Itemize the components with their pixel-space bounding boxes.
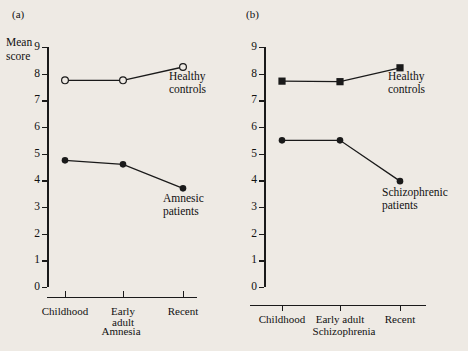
data-point-marker — [337, 137, 344, 144]
y-tick-label: 5 — [34, 148, 40, 160]
data-point-marker — [279, 137, 286, 144]
y-tick-label: 6 — [251, 121, 257, 133]
y-tick-label: 7 — [34, 95, 40, 107]
panel-a-letter: (a) — [12, 8, 24, 20]
panel-a-x-axis-title: Amnesia — [101, 325, 140, 337]
y-tick-label: 2 — [251, 228, 257, 240]
y-tick-label: 3 — [34, 201, 40, 213]
panel-b-x-axis-title: Schizophrenia — [313, 325, 376, 337]
panel-a-label-healthy-controls: Healthy controls — [169, 70, 206, 96]
y-tick-label: 8 — [34, 68, 40, 80]
panel-a-x-axis — [47, 297, 197, 298]
y-tick-label: 4 — [34, 175, 40, 187]
x-tick-label: Recent — [385, 314, 416, 325]
x-tick — [340, 305, 341, 311]
panel-a-y-axis-label-line1: Mean — [6, 36, 32, 50]
panel-b: (b) Autobiographical score 0123456789 Ch… — [234, 0, 468, 351]
x-tick-label: Childhood — [42, 306, 88, 317]
panel-a-label-healthy-controls-line2: controls — [169, 83, 206, 96]
y-tick-label: 5 — [251, 148, 257, 160]
panel-a-label-amnesic-patients-line1: Amnesic — [163, 192, 204, 205]
panel-a-label-amnesic-patients-line2: patients — [163, 205, 204, 218]
panel-a-y-axis-label-line2: score — [6, 50, 32, 64]
panel-b-label-schizophrenic-patients-line1: Schizophrenic — [382, 186, 448, 199]
y-tick-label: 1 — [251, 255, 257, 267]
data-point-marker — [62, 157, 69, 164]
data-point-marker — [120, 161, 127, 168]
data-point-marker — [336, 78, 343, 85]
y-tick-label: 7 — [251, 95, 257, 107]
panel-a: (a) Mean score 0123456789 ChildhoodEarly… — [0, 0, 234, 351]
y-tick-label: 3 — [251, 201, 257, 213]
x-tick-label: Childhood — [259, 314, 305, 325]
y-tick-label: 9 — [34, 41, 40, 53]
panel-a-label-healthy-controls-line1: Healthy — [169, 70, 206, 83]
panel-a-y-axis-label: Mean score — [6, 36, 32, 63]
y-tick-label: 4 — [251, 175, 257, 187]
y-tick-label: 6 — [34, 121, 40, 133]
data-point-marker — [397, 178, 404, 185]
y-tick-label: 1 — [34, 255, 40, 267]
panel-b-label-healthy-controls-line2: controls — [388, 83, 425, 96]
data-point-marker — [278, 78, 285, 85]
panel-b-letter: (b) — [246, 8, 259, 20]
y-tick-label: 9 — [251, 41, 257, 53]
x-tick — [282, 305, 283, 311]
series-line — [282, 140, 400, 181]
y-tick-label: 0 — [251, 281, 257, 293]
panel-b-label-schizophrenic-patients: Schizophrenic patients — [382, 186, 448, 212]
y-tick-label: 2 — [34, 228, 40, 240]
panel-b-label-healthy-controls: Healthy controls — [388, 70, 425, 96]
y-tick-label: 8 — [251, 68, 257, 80]
data-point-marker — [62, 77, 69, 84]
panel-b-label-schizophrenic-patients-line2: patients — [382, 199, 448, 212]
data-point-marker — [120, 77, 127, 84]
panel-a-label-amnesic-patients: Amnesic patients — [163, 192, 204, 218]
x-tick-label: Early adult — [316, 314, 365, 325]
panel-b-label-healthy-controls-line1: Healthy — [388, 70, 425, 83]
y-tick-label: 0 — [34, 281, 40, 293]
x-tick-label: Recent — [168, 306, 199, 317]
data-point-marker — [180, 185, 187, 192]
x-tick — [400, 305, 401, 311]
